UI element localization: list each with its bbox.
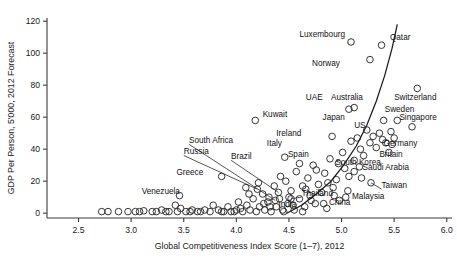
x-tick-label: 6.0 xyxy=(441,225,453,235)
data-point xyxy=(348,138,355,145)
data-point xyxy=(253,208,260,215)
data-point xyxy=(315,181,322,188)
point-label-japan: Japan xyxy=(323,113,346,122)
point-label-venezuela: Venezuela xyxy=(142,187,181,196)
data-point-labeled xyxy=(388,128,395,135)
data-point xyxy=(136,208,143,215)
data-point xyxy=(339,149,346,156)
point-label-taiwan: Taiwan xyxy=(382,181,408,190)
data-point xyxy=(225,204,232,211)
data-point xyxy=(277,173,284,180)
data-point xyxy=(187,208,194,215)
y-tick-label: 60 xyxy=(30,112,40,122)
data-point xyxy=(247,207,254,214)
data-point xyxy=(346,173,353,180)
data-point xyxy=(313,167,320,174)
x-tick-label: 4.0 xyxy=(230,225,242,235)
y-tick-label: 0 xyxy=(35,208,40,218)
point-label-luxembourg: Luxembourg xyxy=(299,30,345,39)
point-label-greece: Greece xyxy=(176,168,203,177)
data-point xyxy=(310,162,317,169)
data-point xyxy=(327,156,334,163)
point-label-australia: Australia xyxy=(331,93,363,102)
data-point xyxy=(246,191,253,198)
y-tick-label: 80 xyxy=(30,80,40,90)
data-point xyxy=(370,133,377,140)
chart-svg: 0204060801001202.53.03.54.04.55.05.56.0G… xyxy=(0,0,457,262)
y-tick-label: 120 xyxy=(26,16,41,26)
x-tick-label: 4.5 xyxy=(283,225,295,235)
data-point xyxy=(105,208,112,215)
data-point-labeled xyxy=(378,42,385,49)
point-label-britain: Britain xyxy=(379,150,403,159)
data-point-labeled xyxy=(218,173,225,180)
point-label-italy: Italy xyxy=(267,139,283,148)
x-axis-title: Global Competitiveness Index Score (1–7)… xyxy=(155,241,345,251)
point-label-switzerland: Switzerland xyxy=(394,93,437,102)
data-point xyxy=(288,188,295,195)
data-point-labeled xyxy=(320,200,327,207)
point-label-india: India xyxy=(278,200,296,209)
data-point xyxy=(321,170,328,177)
y-tick-label: 100 xyxy=(26,48,41,58)
data-point xyxy=(345,188,352,195)
point-label-russia: Russia xyxy=(184,147,209,156)
y-tick-label: 40 xyxy=(30,144,40,154)
data-point xyxy=(357,146,364,153)
data-point xyxy=(268,208,275,215)
x-tick-label: 5.5 xyxy=(388,225,400,235)
data-point xyxy=(244,202,251,209)
data-point xyxy=(125,208,132,215)
y-tick-label: 20 xyxy=(30,176,40,186)
data-point xyxy=(210,202,217,209)
point-label-thailand: Thailand xyxy=(302,189,334,198)
point-label-ireland: Ireland xyxy=(276,129,301,138)
data-point-labeled xyxy=(348,39,355,46)
point-label-malaysia: Malaysia xyxy=(352,192,385,201)
data-point xyxy=(325,180,332,187)
data-point-labeled xyxy=(351,168,358,175)
point-label-south-africa: South Africa xyxy=(189,136,234,145)
point-label-norway: Norway xyxy=(312,59,341,68)
data-point xyxy=(282,178,289,185)
data-point-labeled xyxy=(296,160,303,167)
data-point-labeled xyxy=(329,133,336,140)
point-label-germany: Germany xyxy=(384,139,419,148)
data-point-labeled xyxy=(358,175,365,182)
point-label-uae: UAE xyxy=(306,93,323,102)
x-tick-label: 3.0 xyxy=(125,225,137,235)
point-label-singapore: Singapore xyxy=(399,113,437,122)
point-label-us: US xyxy=(354,121,366,130)
x-tick-label: 5.0 xyxy=(336,225,348,235)
point-label-spain: Spain xyxy=(288,150,309,159)
point-label-kuwait: Kuwait xyxy=(263,110,288,119)
y-axis-title: GDP Per Person, 5'000, 2012 Forecast xyxy=(6,41,16,194)
data-point xyxy=(305,175,312,182)
data-point-labeled xyxy=(367,56,374,63)
point-label-saudi-arabia: Saudi Arabia xyxy=(363,163,410,172)
scatter-chart: 0204060801001202.53.03.54.04.55.05.56.0G… xyxy=(0,0,457,262)
data-point xyxy=(235,199,242,206)
data-point-labeled xyxy=(380,117,387,124)
data-point-labeled xyxy=(409,124,416,131)
data-point xyxy=(367,140,374,147)
data-point-labeled xyxy=(252,117,259,124)
point-label-qatar: Qatar xyxy=(390,33,411,42)
data-point xyxy=(115,208,122,215)
point-label-brazil: Brazil xyxy=(231,152,252,161)
data-point xyxy=(293,168,300,175)
data-point-labeled xyxy=(275,189,282,196)
data-point xyxy=(98,208,105,215)
x-tick-label: 3.5 xyxy=(178,225,190,235)
x-tick-label: 2.5 xyxy=(73,225,85,235)
data-point-labeled xyxy=(414,85,421,92)
point-label-china: China xyxy=(329,198,351,207)
data-point xyxy=(376,130,383,137)
